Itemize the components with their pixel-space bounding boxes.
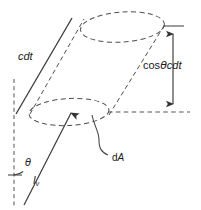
label-cdt: cdt: [18, 51, 33, 62]
label-theta-glyph: θ: [160, 59, 167, 72]
top-ellipse: [80, 9, 166, 45]
angle-arc: [14, 172, 23, 176]
radiative-transfer-diagram: cdt cosθcdt θ Iν dA: [0, 0, 201, 210]
label-intensity-subscript: ν: [36, 180, 39, 187]
label-area-element-A: A: [118, 152, 125, 163]
bottom-ellipse: [28, 96, 109, 127]
label-area-element: dA: [112, 153, 124, 163]
label-cdt-text: cdt: [167, 59, 182, 71]
label-cos-theta-cdt: cosθcdt: [143, 60, 182, 71]
cylinder-left-edge: [16, 18, 72, 114]
label-theta: θ: [25, 158, 31, 168]
label-intensity: Iν: [33, 176, 39, 187]
label-cos-text: cos: [143, 59, 160, 71]
diagram-canvas: [0, 0, 201, 210]
